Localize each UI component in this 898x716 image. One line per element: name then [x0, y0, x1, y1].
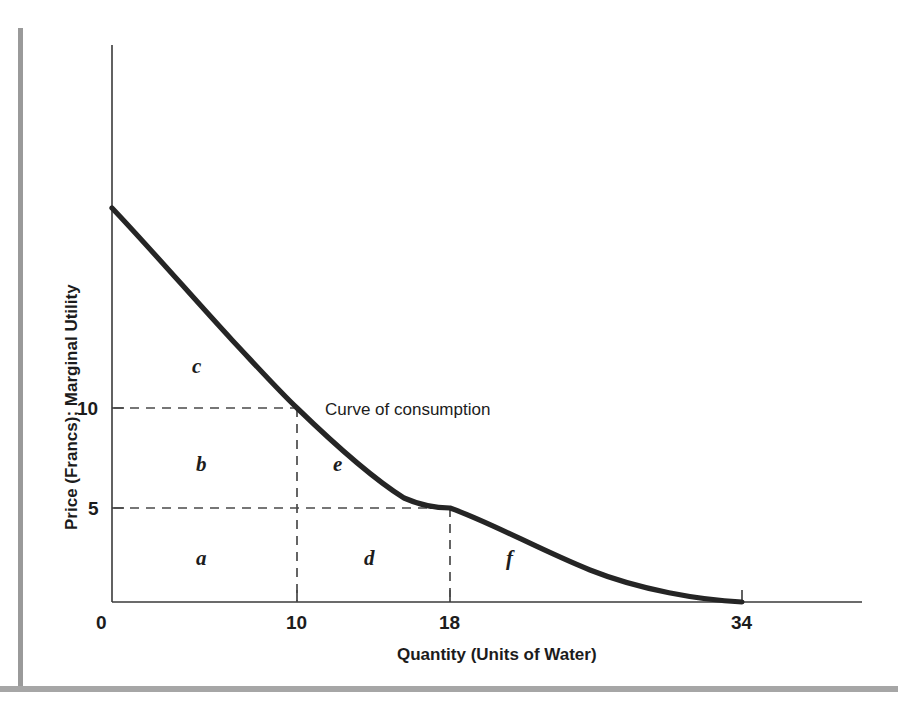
x-tick-label-10: 10: [286, 612, 307, 634]
x-tick-label-0: 0: [96, 612, 107, 634]
region-label-a: a: [196, 546, 207, 571]
y-axis-title: Price (Francs); Marginal Utility: [62, 284, 82, 530]
figure-page: 10 5 0 10 18 34 Price (Francs); Marginal…: [0, 0, 898, 716]
x-axis-title: Quantity (Units of Water): [397, 645, 597, 665]
curve-of-consumption-label: Curve of consumption: [325, 400, 490, 420]
region-label-e: e: [333, 452, 342, 477]
region-label-f: f: [506, 546, 513, 571]
region-label-b: b: [196, 452, 207, 477]
y-tick-label-5: 5: [88, 498, 99, 520]
x-tick-label-34: 34: [731, 612, 752, 634]
region-label-d: d: [364, 546, 375, 571]
chart-canvas: [0, 0, 898, 716]
region-label-c: c: [192, 354, 201, 379]
x-tick-label-18: 18: [439, 612, 460, 634]
